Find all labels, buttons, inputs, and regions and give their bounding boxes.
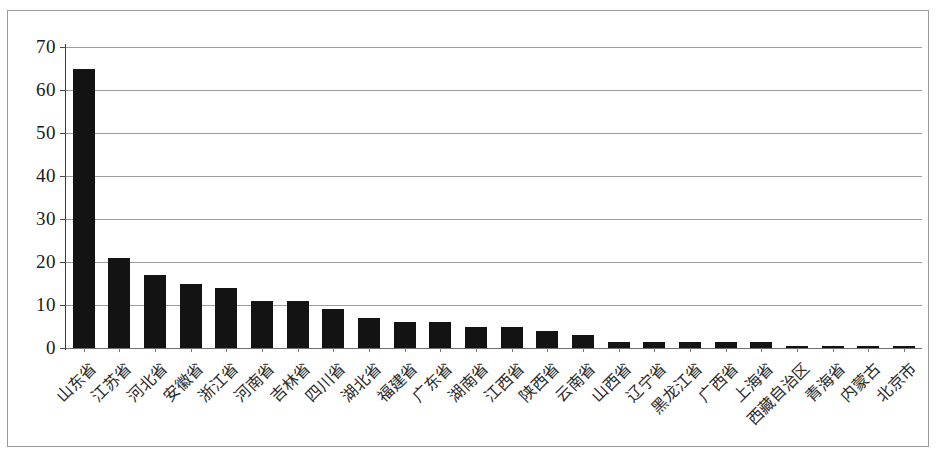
bar-slot	[137, 47, 173, 348]
bar[interactable]	[465, 327, 487, 349]
y-tick-label-10: 10	[36, 294, 56, 316]
plot-area: 010203040506070	[66, 47, 922, 348]
x-label-slot: 江苏省	[102, 352, 138, 452]
bar[interactable]	[358, 318, 380, 348]
bar[interactable]	[287, 301, 309, 348]
x-label-slot: 陕西省	[530, 352, 566, 452]
bar-slot	[851, 47, 887, 348]
bar-slot	[244, 47, 280, 348]
gridline-0: 0	[66, 348, 922, 349]
bar-slot	[672, 47, 708, 348]
bar-slot	[815, 47, 851, 348]
bar-slot	[637, 47, 673, 348]
bar-slot	[886, 47, 922, 348]
bar-slot	[423, 47, 459, 348]
bar[interactable]	[251, 301, 273, 348]
bar-slot	[565, 47, 601, 348]
y-tick-label-50: 50	[36, 122, 56, 144]
bar-slot	[744, 47, 780, 348]
bar[interactable]	[536, 331, 558, 348]
x-label-slot: 湖北省	[351, 352, 387, 452]
bar[interactable]	[429, 322, 451, 348]
bar[interactable]	[108, 258, 130, 348]
bar[interactable]	[394, 322, 416, 348]
bar-slot	[530, 47, 566, 348]
bar[interactable]	[144, 275, 166, 348]
bar[interactable]	[572, 335, 594, 348]
x-label-slot: 西藏自治区	[779, 352, 815, 452]
bar-slot	[708, 47, 744, 348]
bar-slot	[601, 47, 637, 348]
bar[interactable]	[501, 327, 523, 349]
bar-slot	[280, 47, 316, 348]
bar-series	[66, 47, 922, 348]
y-tick-label-20: 20	[36, 251, 56, 273]
bar-slot	[316, 47, 352, 348]
x-label-slot: 黑龙江省	[672, 352, 708, 452]
bar-slot	[779, 47, 815, 348]
bar-slot	[387, 47, 423, 348]
bar[interactable]	[180, 284, 202, 349]
x-label-slot: 四川省	[316, 352, 352, 452]
x-label-slot: 北京市	[886, 352, 922, 452]
bar-slot	[102, 47, 138, 348]
x-label-slot: 河南省	[244, 352, 280, 452]
x-label-slot: 湖南省	[458, 352, 494, 452]
bar-slot	[458, 47, 494, 348]
x-label-slot: 广东省	[423, 352, 459, 452]
y-tick-label-70: 70	[36, 36, 56, 58]
x-label-slot: 云南省	[565, 352, 601, 452]
bar-slot	[209, 47, 245, 348]
x-label-slot: 浙江省	[209, 352, 245, 452]
y-tick-mark-0	[60, 348, 66, 349]
bar-slot	[494, 47, 530, 348]
y-tick-label-40: 40	[36, 165, 56, 187]
bar-slot	[173, 47, 209, 348]
x-label-slot: 内蒙古	[851, 352, 887, 452]
bar[interactable]	[322, 309, 344, 348]
y-tick-label-60: 60	[36, 79, 56, 101]
x-label-slot: 河北省	[137, 352, 173, 452]
y-tick-label-0: 0	[46, 337, 56, 359]
chart-screenshot: 010203040506070 山东省江苏省河北省安徽省浙江省河南省吉林省四川省…	[0, 0, 937, 454]
y-tick-label-30: 30	[36, 208, 56, 230]
x-axis-labels: 山东省江苏省河北省安徽省浙江省河南省吉林省四川省湖北省福建省广东省湖南省江西省陕…	[66, 352, 922, 452]
bar[interactable]	[215, 288, 237, 348]
bar[interactable]	[73, 69, 95, 349]
bar-slot	[351, 47, 387, 348]
bar-slot	[66, 47, 102, 348]
